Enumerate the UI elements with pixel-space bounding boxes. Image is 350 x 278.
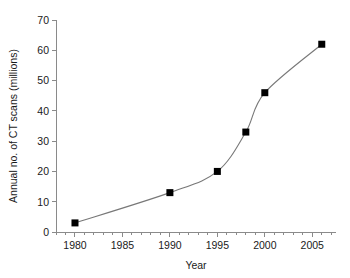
data-point-marker <box>214 168 221 175</box>
x-axis-tick-label: 2000 <box>253 239 277 251</box>
y-axis-tick-label: 40 <box>37 105 49 117</box>
y-axis-title: Annual no. of CT scans (millions) <box>7 49 19 203</box>
x-axis-tick-label: 2005 <box>301 239 325 251</box>
data-point-marker <box>242 129 249 136</box>
y-axis-tick-label: 10 <box>37 196 49 208</box>
y-axis-tick-label: 70 <box>37 14 49 26</box>
y-axis-tick-label: 30 <box>37 135 49 147</box>
data-point-marker <box>71 219 78 226</box>
y-axis-tick-label: 60 <box>37 44 49 56</box>
x-axis-title: Year <box>185 259 207 271</box>
x-axis-tick-label: 1995 <box>206 239 230 251</box>
y-axis-tick-label: 20 <box>37 165 49 177</box>
x-axis-tick-label: 1990 <box>158 239 182 251</box>
ct-scan-line-chart: 010203040506070 198019851990199520002005… <box>0 0 350 278</box>
y-axis-tick-label: 50 <box>37 74 49 86</box>
x-axis-tick-label: 1985 <box>111 239 135 251</box>
x-axis-tick-label: 1980 <box>63 239 87 251</box>
chart-background <box>0 0 350 278</box>
chart-container: 010203040506070 198019851990199520002005… <box>0 0 350 278</box>
y-axis-tick-label: 0 <box>43 226 49 238</box>
data-point-marker <box>318 41 325 48</box>
data-point-marker <box>261 89 268 96</box>
data-point-marker <box>166 189 173 196</box>
